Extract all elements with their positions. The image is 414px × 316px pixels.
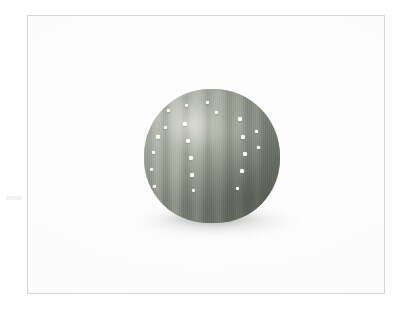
- cactus-dot: [186, 139, 190, 143]
- cactus-dot: [164, 126, 167, 129]
- edge-mark: [6, 196, 22, 200]
- cactus-dot: [152, 151, 155, 154]
- cactus-dot: [206, 101, 209, 104]
- cactus-dot: [153, 185, 156, 188]
- cactus-dot: [243, 152, 247, 156]
- cactus-dot: [257, 146, 260, 149]
- cactus-shading: [144, 89, 280, 223]
- photo-frame: [27, 15, 385, 294]
- cactus-dot: [183, 122, 187, 126]
- cactus-dot: [238, 117, 242, 121]
- cactus-dot: [240, 169, 244, 173]
- screenshot-canvas: [0, 0, 414, 316]
- cactus-subject: [144, 89, 280, 223]
- cactus-dot: [156, 135, 160, 139]
- cactus-dot: [190, 173, 194, 177]
